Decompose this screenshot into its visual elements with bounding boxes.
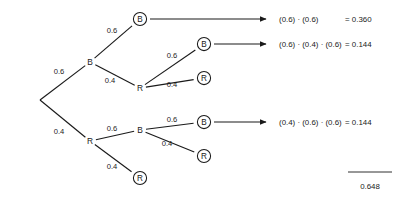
tree-node-n-b1: B — [87, 57, 93, 67]
edge-weight-e-b1-b: 0.6 — [107, 26, 118, 35]
total-sum-value: 0.648 — [360, 182, 380, 191]
edge-weight-labels-layer: 0.60.40.60.40.60.40.60.40.60.4 — [54, 26, 178, 171]
node-label-n-b1r: R — [137, 83, 143, 93]
edge-weight-e-root-r1: 0.4 — [54, 127, 65, 136]
tree-node-n-r1r: R — [133, 171, 146, 184]
nodes-layer: BRBRBRBRBR — [87, 12, 211, 184]
edge-weight-e-b1-r: 0.4 — [105, 76, 116, 85]
tree-edge-e-r1-b — [96, 131, 134, 139]
edges-layer — [40, 26, 195, 172]
tree-node-n-r1: R — [87, 136, 93, 146]
edge-weight-e-b1r-b: 0.6 — [167, 51, 178, 60]
edge-weight-e-r1b-b: 0.6 — [167, 115, 178, 124]
outcome-arrows-layer — [150, 19, 266, 122]
tree-node-n-r1b: B — [137, 125, 143, 135]
edge-weight-e-root-b1: 0.6 — [54, 67, 65, 76]
edge-weight-e-r1-r: 0.4 — [107, 162, 118, 171]
tree-node-n-b1r: R — [137, 83, 143, 93]
outcome-expression-outcome-brb: (0.6) · (0.4) · (0.6) — [279, 40, 342, 49]
node-label-n-r1bb: B — [201, 118, 207, 127]
edge-weight-e-r1-b: 0.6 — [107, 124, 118, 133]
outcome-result-outcome-rbb: = 0.144 — [345, 118, 372, 127]
edge-weight-e-b1r-r: 0.4 — [167, 80, 178, 89]
tree-node-n-r1br: R — [197, 149, 210, 162]
tree-node-n-b1rb: B — [197, 37, 210, 50]
tree-node-n-b1rr: R — [197, 71, 210, 84]
tree-node-n-r1bb: B — [197, 115, 210, 128]
node-label-n-r1br: R — [201, 152, 207, 161]
outcome-expression-outcome-rbb: (0.4) · (0.6) · (0.6) — [279, 118, 342, 127]
outcome-result-outcome-bb: = 0.360 — [345, 15, 372, 24]
total-sum-layer: 0.648 — [348, 172, 392, 191]
node-label-n-b1rb: B — [201, 40, 207, 49]
node-label-n-b1b: B — [137, 15, 143, 24]
node-label-n-b1: B — [87, 57, 93, 67]
edge-weight-e-r1b-r: 0.4 — [162, 139, 173, 148]
probability-tree-diagram: BRBRBRBRBR 0.60.40.60.40.60.40.60.40.60.… — [0, 0, 409, 208]
tree-edge-e-r1b-b — [146, 123, 194, 129]
node-label-n-r1: R — [87, 136, 93, 146]
node-label-n-r1b: B — [137, 125, 143, 135]
tree-node-n-b1b: B — [133, 12, 146, 25]
outcome-result-outcome-brb: = 0.144 — [345, 40, 372, 49]
node-label-n-r1r: R — [137, 174, 143, 183]
node-label-n-b1rr: R — [201, 74, 207, 83]
outcome-expression-outcome-bb: (0.6) · (0.6) — [279, 15, 319, 24]
outcome-expressions-layer: (0.6) · (0.6)= 0.360(0.6) · (0.4) · (0.6… — [279, 15, 372, 127]
tree-svg-canvas: BRBRBRBRBR 0.60.40.60.40.60.40.60.40.60.… — [0, 0, 409, 208]
